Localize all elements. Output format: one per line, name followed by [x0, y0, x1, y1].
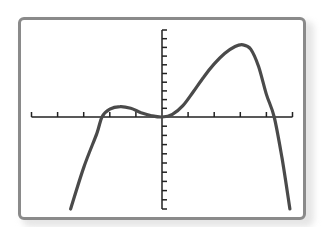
graph-plot: [0, 0, 323, 227]
function-curve: [71, 45, 290, 209]
